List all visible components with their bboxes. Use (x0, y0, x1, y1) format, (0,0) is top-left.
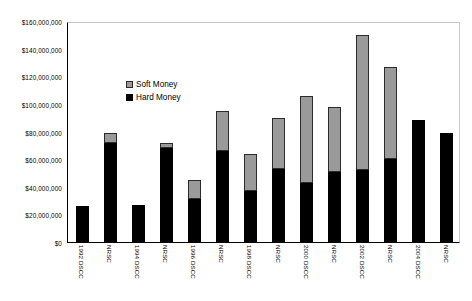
bar-segment-hard-money (384, 159, 397, 242)
bar-group (412, 21, 425, 242)
x-axis-tick-text: 1994 DSCC (134, 245, 141, 279)
bar-segment-hard-money (188, 199, 201, 242)
bar-group (440, 21, 453, 242)
bar-segment-hard-money (272, 169, 285, 242)
legend-item-hard-money: Hard Money (126, 91, 181, 103)
bar-group (104, 21, 117, 242)
bar-group (244, 21, 257, 242)
y-axis-tick-label: $120,000,000 (22, 74, 62, 81)
bar-segment-soft-money (384, 67, 397, 160)
legend-label-hard-money: Hard Money (136, 93, 181, 102)
x-axis-tick-text: 2004 DSCC (414, 245, 421, 279)
y-axis-tick-label: $140,000,000 (22, 46, 62, 53)
bar-group (384, 21, 397, 242)
x-axis-tick-text: 1996 DSCC (190, 245, 197, 279)
x-axis-tick-text: NRSC (274, 245, 281, 263)
hard-money-swatch-icon (126, 94, 133, 101)
bar-group (188, 21, 201, 242)
x-axis-tick-label: 2004 DSCC (411, 245, 424, 299)
x-axis-tick-label: NRSC (103, 245, 116, 299)
y-axis: $0$20,000,000$40,000,000$60,000,000$80,0… (0, 0, 66, 301)
x-axis: 1992 DSCCNRSC1994 DSCCNRSC1996 DSCCNRSC1… (67, 245, 460, 301)
bar-group (272, 21, 285, 242)
bar-segment-hard-money (104, 143, 117, 242)
x-axis-tick-text: 2000 DSCC (302, 245, 309, 279)
y-axis-tick-label: $60,000,000 (25, 157, 62, 164)
x-axis-tick-text: 1998 DSCC (246, 245, 253, 279)
x-axis-tick-label: NRSC (439, 245, 452, 299)
bars-layer (68, 23, 459, 242)
x-axis-tick-label: 1996 DSCC (187, 245, 200, 299)
bar-segment-hard-money (132, 205, 145, 242)
bar-group (76, 21, 89, 242)
bar-segment-hard-money (76, 206, 89, 242)
x-axis-tick-text: 2002 DSCC (358, 245, 365, 279)
bar-group (160, 21, 173, 242)
x-axis-tick-label: 1994 DSCC (131, 245, 144, 299)
x-axis-tick-text: 1992 DSCC (78, 245, 85, 279)
bar-group (300, 21, 313, 242)
x-axis-tick-label: NRSC (271, 245, 284, 299)
x-axis-tick-label: NRSC (327, 245, 340, 299)
bar-segment-soft-money (244, 154, 257, 191)
bar-group (328, 21, 341, 242)
bar-segment-hard-money (412, 120, 425, 242)
x-axis-tick-text: NRSC (106, 245, 113, 263)
x-axis-tick-label: 1998 DSCC (243, 245, 256, 299)
y-axis-tick-label: $0 (55, 240, 62, 247)
bar-group (216, 21, 229, 242)
bar-segment-hard-money (160, 148, 173, 242)
bar-segment-hard-money (300, 183, 313, 242)
y-axis-tick-label: $80,000,000 (25, 129, 62, 136)
bar-segment-soft-money (188, 180, 201, 199)
bar-segment-hard-money (216, 151, 229, 242)
bar-segment-soft-money (328, 107, 341, 172)
bar-segment-soft-money (216, 111, 229, 151)
x-axis-tick-label: 1992 DSCC (75, 245, 88, 299)
bar-group (356, 21, 369, 242)
bar-segment-hard-money (440, 133, 453, 242)
x-axis-tick-text: NRSC (162, 245, 169, 263)
x-axis-tick-label: NRSC (383, 245, 396, 299)
bar-group (132, 21, 145, 242)
x-axis-tick-label: NRSC (215, 245, 228, 299)
bar-segment-hard-money (244, 191, 257, 242)
y-axis-tick-label: $40,000,000 (25, 184, 62, 191)
bar-segment-soft-money (300, 96, 313, 183)
plot-area (67, 22, 460, 243)
x-axis-tick-label: 2002 DSCC (355, 245, 368, 299)
x-axis-tick-label: NRSC (159, 245, 172, 299)
y-axis-tick-label: $100,000,000 (22, 101, 62, 108)
x-axis-tick-label: 2000 DSCC (299, 245, 312, 299)
bar-segment-soft-money (104, 133, 117, 143)
x-axis-tick-text: NRSC (330, 245, 337, 263)
soft-money-swatch-icon (126, 81, 133, 88)
chart-legend: Soft Money Hard Money (126, 78, 181, 104)
bar-segment-hard-money (356, 170, 369, 242)
bar-segment-soft-money (356, 35, 369, 170)
x-axis-tick-text: NRSC (442, 245, 449, 263)
x-axis-tick-text: NRSC (386, 245, 393, 263)
bar-chart: $0$20,000,000$40,000,000$60,000,000$80,0… (0, 0, 472, 301)
bar-segment-soft-money (272, 118, 285, 169)
legend-label-soft-money: Soft Money (136, 80, 177, 89)
y-axis-tick-label: $160,000,000 (22, 19, 62, 26)
legend-item-soft-money: Soft Money (126, 78, 181, 90)
y-axis-tick-label: $20,000,000 (25, 212, 62, 219)
x-axis-tick-text: NRSC (218, 245, 225, 263)
bar-segment-hard-money (328, 172, 341, 242)
